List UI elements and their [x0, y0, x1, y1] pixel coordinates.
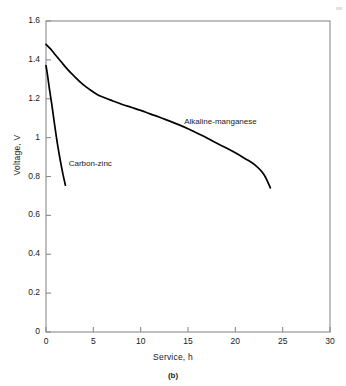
y-axis-title: Voltage, V	[12, 110, 22, 200]
y-tick-label: 1	[8, 132, 40, 142]
figure-caption: (b)	[0, 371, 346, 380]
x-tick-label: 5	[80, 336, 106, 346]
series-line-carbon-zinc	[46, 66, 65, 186]
y-tick-label: 0.4	[8, 248, 40, 258]
y-tick-label: 0.8	[8, 171, 40, 181]
y-tick-label: 1.4	[8, 54, 40, 64]
plot-frame	[46, 21, 330, 332]
x-tick-label: 20	[222, 336, 248, 346]
x-tick-label: 15	[175, 336, 201, 346]
y-tick-label: 1.6	[8, 15, 40, 25]
series-label-alkaline-manganese: Alkaline-manganese	[184, 117, 257, 126]
y-tick-label: 1.2	[8, 93, 40, 103]
y-tick-label: 0.2	[8, 287, 40, 297]
x-tick-label: 25	[270, 336, 296, 346]
x-axis-title: Service, h	[0, 352, 346, 362]
x-tick-label: 0	[33, 336, 59, 346]
figure-panel-b: Voltage, V Service, h (b) 00.20.40.60.81…	[0, 0, 346, 386]
x-tick-label: 30	[317, 336, 343, 346]
chart-plot-area	[0, 0, 346, 386]
y-tick-label: 0	[8, 326, 40, 336]
series-label-carbon-zinc: Carbon-zinc	[69, 159, 112, 168]
y-tick-label: 0.6	[8, 209, 40, 219]
x-tick-label: 10	[128, 336, 154, 346]
